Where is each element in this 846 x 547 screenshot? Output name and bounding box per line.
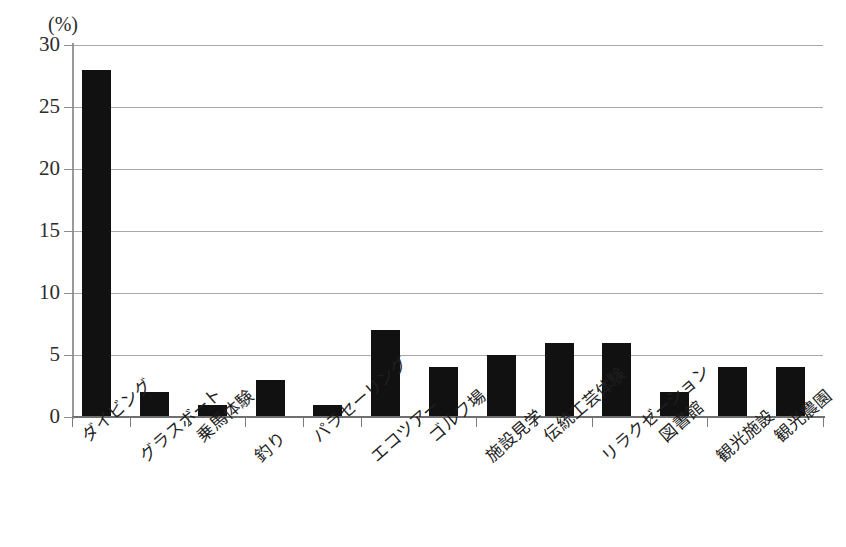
- x-tick-mark: [361, 418, 362, 427]
- y-tick-label-10: 10: [14, 282, 60, 303]
- y-tick-mark-5: [64, 355, 74, 356]
- y-tick-label-0: 0: [14, 406, 60, 427]
- y-tick-label-20: 20: [14, 158, 60, 179]
- x-axis-label: 釣り: [252, 430, 289, 466]
- y-tick-label-30: 30: [14, 34, 60, 55]
- x-tick-mark: [72, 418, 73, 427]
- x-tick-mark: [476, 418, 477, 427]
- bar: [718, 367, 747, 417]
- y-tick-label-15: 15: [14, 220, 60, 241]
- y-axis-unit-label: (%): [48, 14, 78, 34]
- x-tick-mark: [245, 418, 246, 427]
- y-tick-mark-10: [64, 293, 74, 294]
- x-tick-mark: [130, 418, 131, 427]
- y-tick-mark-30: [64, 45, 74, 46]
- bar-chart: (%) 051015202530 ダイビンググラスボート乗馬体験釣りパラセーリン…: [0, 0, 846, 547]
- x-tick-mark: [823, 418, 824, 427]
- x-tick-mark: [592, 418, 593, 427]
- bar: [82, 70, 111, 417]
- y-tick-label-25: 25: [14, 96, 60, 117]
- y-tick-mark-20: [64, 169, 74, 170]
- x-tick-mark: [707, 418, 708, 427]
- y-tick-mark-15: [64, 231, 74, 232]
- bars-layer: [72, 45, 823, 417]
- x-tick-mark: [303, 418, 304, 427]
- y-tick-label-5: 5: [14, 344, 60, 365]
- bar: [487, 355, 516, 417]
- bar: [256, 380, 285, 417]
- y-tick-mark-25: [64, 107, 74, 108]
